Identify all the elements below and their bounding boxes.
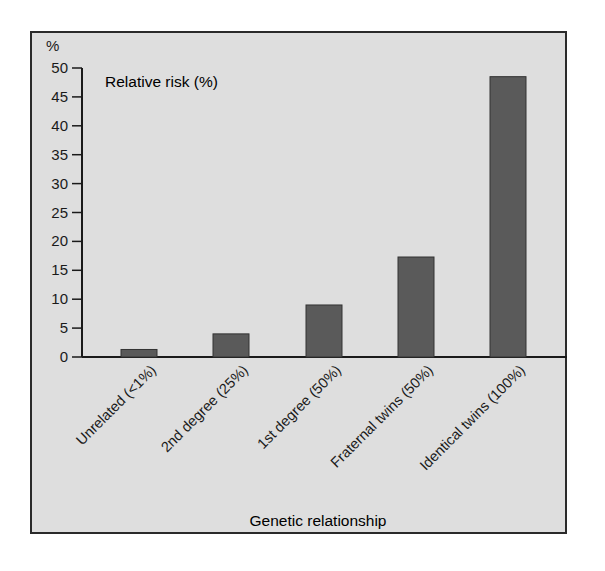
bar-chart: 05101520253035404550 Unrelated (<1%)2nd … [0,0,605,571]
x-tick-label: Identical twins (100%) [417,362,529,474]
y-tick-label: 40 [51,117,68,134]
bar [213,334,249,357]
y-tick-label: 10 [51,290,68,307]
x-tick-label: Fraternal twins (50%) [327,362,436,471]
y-tick-label: 25 [51,204,68,221]
bars [121,77,526,357]
y-tick-label: 15 [51,261,68,278]
x-axis-labels: Unrelated (<1%)2nd degree (25%)1st degre… [73,362,528,474]
x-tick-label: 2nd degree (25%) [158,362,251,455]
y-tick-label: 35 [51,146,68,163]
bar [306,305,342,357]
bar [121,349,157,357]
x-axis-title: Genetic relationship [250,512,387,529]
chart-title: Relative risk (%) [105,73,218,90]
y-tick-label: 30 [51,175,68,192]
x-tick-label: Unrelated (<1%) [73,362,159,448]
bar [398,257,434,357]
y-tick-label: 45 [51,88,68,105]
y-unit-label: % [46,37,59,54]
y-tick-label: 20 [51,232,68,249]
y-tick-label: 0 [60,348,68,365]
y-tick-label: 5 [60,319,68,336]
y-tick-label: 50 [51,59,68,76]
bar [490,77,526,357]
x-tick-label: 1st degree (50%) [254,362,344,452]
